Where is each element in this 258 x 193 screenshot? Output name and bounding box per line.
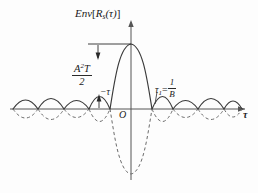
x-axis — [10, 106, 245, 112]
peak-amplitude-indicator — [88, 44, 131, 60]
title-bracket-close: ] — [117, 7, 121, 19]
tau1-fraction-denominator: B — [168, 89, 177, 99]
envelope-lower-dashed — [13, 109, 242, 174]
envelope-upper-solid — [13, 44, 242, 109]
title-R-symbol: R — [96, 7, 103, 19]
title-env-text: Env — [75, 7, 92, 19]
origin-label: O — [119, 110, 126, 120]
peak-arrow-head — [96, 53, 101, 61]
title-argument: (τ) — [105, 7, 116, 19]
amplitude-denominator: 2 — [72, 76, 92, 89]
first-zero-crossing-label: τ1=1B — [155, 78, 176, 99]
tau1-fraction-numerator: 1 — [168, 78, 177, 89]
figure-canvas: Env[Rs(τ)] A2T 2 −τ τ1=1B O τ — [0, 0, 258, 193]
plot-svg — [0, 0, 258, 193]
plot-title: Env[Rs(τ)] — [75, 8, 120, 21]
tau1-fraction: 1B — [168, 78, 177, 99]
peak-amplitude-label: A2T 2 — [72, 62, 92, 89]
negative-tau-label: −τ — [100, 88, 110, 98]
amplitude-T: T — [84, 63, 90, 74]
x-axis-label: τ — [243, 110, 247, 120]
amplitude-numerator: A2T — [72, 62, 92, 76]
y-axis-arrowhead — [128, 20, 133, 27]
